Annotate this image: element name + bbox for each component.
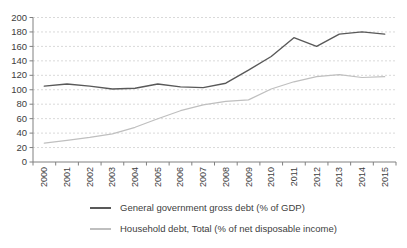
x-axis-label: 2009	[244, 167, 254, 187]
legend-line-marker-government	[90, 207, 111, 209]
legend-item-label-household: Household debt, Total (% of net disposab…	[120, 223, 337, 235]
x-axis-label: 2001	[62, 167, 72, 187]
x-axis-label: 2007	[198, 167, 208, 187]
x-axis-label: 2011	[289, 167, 299, 186]
legend-item-household: Household debt, Total (% of net disposab…	[90, 223, 337, 235]
y-axis-label: 80	[16, 98, 27, 109]
x-axis-label: 2014	[357, 167, 367, 187]
chart-legend: General government gross debt (% of GDP)…	[90, 202, 337, 235]
x-axis-label: 2002	[85, 167, 95, 187]
legend-item-label-government: General government gross debt (% of GDP)	[120, 202, 305, 214]
y-axis-label: 0	[22, 156, 27, 167]
line-chart-figure: 0204060801001201401601802002000200120022…	[0, 0, 407, 248]
y-axis-label: 140	[11, 55, 27, 66]
y-axis-label: 180	[11, 26, 27, 37]
y-axis-label: 20	[16, 142, 27, 153]
y-axis-label: 200	[11, 12, 27, 23]
x-axis-label: 2003	[107, 167, 117, 187]
y-axis-label: 160	[11, 41, 27, 52]
legend-line-marker-household	[90, 228, 111, 230]
y-axis-label: 60	[16, 113, 27, 124]
y-axis-label: 40	[16, 127, 27, 138]
x-axis-label: 2000	[39, 167, 49, 187]
x-axis-label: 2010	[266, 167, 276, 187]
y-axis-label: 120	[11, 69, 27, 80]
x-axis-label: 2008	[221, 167, 231, 187]
y-axis-label: 100	[11, 84, 27, 95]
x-axis-label: 2006	[175, 167, 185, 187]
x-axis-label: 2015	[380, 167, 390, 187]
x-axis-label: 2012	[312, 167, 322, 187]
x-axis-label: 2005	[153, 167, 163, 187]
x-axis-label: 2004	[130, 167, 140, 187]
x-axis-label: 2013	[334, 167, 344, 187]
legend-item-government: General government gross debt (% of GDP)	[90, 202, 337, 214]
